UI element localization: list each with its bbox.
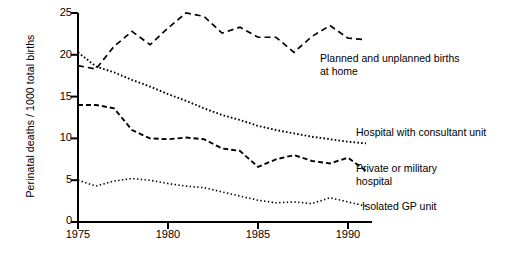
perinatal-deaths-line-chart: Perinatal deaths / 1000 total births 25 … [0, 0, 510, 261]
plot-area [0, 0, 510, 261]
series-line-3 [78, 179, 366, 207]
series-line-2 [78, 105, 366, 171]
series-line-1 [78, 52, 366, 143]
series-line-0 [78, 13, 366, 69]
